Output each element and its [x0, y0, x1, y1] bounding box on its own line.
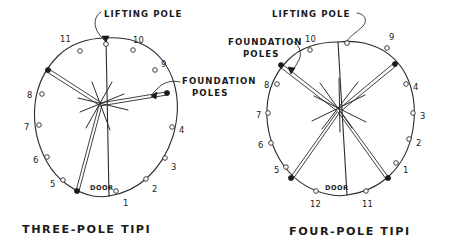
- peg-hole-7: [37, 123, 42, 128]
- peg-hole-10: [131, 48, 136, 53]
- peg-label-7: 7: [24, 122, 29, 132]
- peg-hole-6: [45, 155, 50, 160]
- peg-hole-8: [275, 82, 280, 87]
- peg-hole-1: [114, 189, 119, 194]
- four-pole-tipi-diagram: 1 2 3 4 5 6 7 8 9 10 11 12 DOOR LIFTING …: [228, 9, 425, 238]
- peg-label-3: 3: [420, 111, 425, 121]
- peg-label-9: 9: [161, 59, 166, 69]
- four-pole-crossing-tips: [312, 78, 366, 132]
- three-pole-caption: THREE-POLE TIPI: [22, 223, 151, 236]
- peg-hole-9: [385, 46, 390, 51]
- peg-label-6: 6: [33, 155, 38, 165]
- peg-hole-8: [40, 92, 45, 97]
- peg-label-2: 2: [416, 138, 421, 148]
- peg-hole-2: [144, 177, 149, 182]
- peg-hole-5: [61, 178, 66, 183]
- peg-label-5: 5: [50, 179, 55, 189]
- peg-label-11: 11: [362, 199, 373, 209]
- peg-hole-11: [364, 189, 369, 194]
- four-pole-door-label: DOOR: [325, 184, 349, 192]
- four-pole-caption: FOUR-POLE TIPI: [289, 225, 411, 238]
- peg-label-4: 4: [179, 125, 184, 135]
- three-pole-peg-numbers: 1 2 3 4 5 6 7 8 9 10 11: [24, 34, 184, 208]
- peg-hole-9: [153, 68, 158, 73]
- four-pole-lifting-pole-callout: LIFTING POLE: [272, 9, 350, 19]
- three-pole-foundation-callout-line1: FOUNDATION: [182, 76, 257, 86]
- three-pole-tipi-diagram: 1 2 3 4 5 6 7 8 9 10 11 DOOR LIFTING POL…: [22, 9, 257, 236]
- peg-hole-10: [308, 48, 313, 53]
- peg-label-11: 11: [60, 34, 71, 44]
- peg-label-9: 9: [389, 32, 394, 42]
- three-pole-rim: [35, 38, 178, 197]
- peg-hole-2: [407, 137, 412, 142]
- four-pole-foundation-callout-line1: FOUNDATION: [228, 37, 303, 47]
- four-pole-foundation-callout-line2: POLES: [243, 49, 279, 59]
- three-pole-foundation-callout-line2: POLES: [192, 88, 228, 98]
- peg-label-1: 1: [403, 165, 408, 175]
- peg-hole-6: [269, 141, 274, 146]
- peg-label-1: 1: [123, 198, 128, 208]
- four-pole-foundation-poles: [280, 63, 396, 179]
- peg-label-3: 3: [171, 162, 176, 172]
- peg-hole-3: [163, 156, 168, 161]
- peg-label-7: 7: [256, 110, 261, 120]
- peg-label-2: 2: [152, 184, 157, 194]
- four-pole-peg-numbers: 1 2 3 4 5 6 7 8 9 10 11 12: [256, 32, 425, 209]
- peg-hole-3: [411, 111, 416, 116]
- three-pole-crossing-tips: [78, 82, 128, 130]
- peg-hole-12: [314, 189, 319, 194]
- peg-label-8: 8: [264, 80, 269, 90]
- three-pole-lifting-pole-callout: LIFTING POLE: [104, 9, 182, 19]
- peg-label-12: 12: [310, 199, 321, 209]
- peg-hole-4: [404, 82, 409, 87]
- peg-hole-11: [78, 49, 83, 54]
- peg-label-4: 4: [413, 82, 418, 92]
- peg-label-8: 8: [27, 90, 32, 100]
- three-pole-foundation-arrowhead: [151, 92, 157, 99]
- tipi-pole-layout-figure: 1 2 3 4 5 6 7 8 9 10 11 DOOR LIFTING POL…: [0, 0, 466, 248]
- peg-hole-4: [170, 125, 175, 130]
- peg-hole-7: [266, 111, 271, 116]
- peg-label-10: 10: [133, 35, 144, 45]
- peg-label-10: 10: [305, 34, 316, 44]
- peg-hole-5: [284, 165, 289, 170]
- peg-label-6: 6: [258, 140, 263, 150]
- three-pole-door-label: DOOR: [90, 184, 114, 192]
- peg-hole-1: [394, 161, 399, 166]
- peg-label-5: 5: [274, 165, 279, 175]
